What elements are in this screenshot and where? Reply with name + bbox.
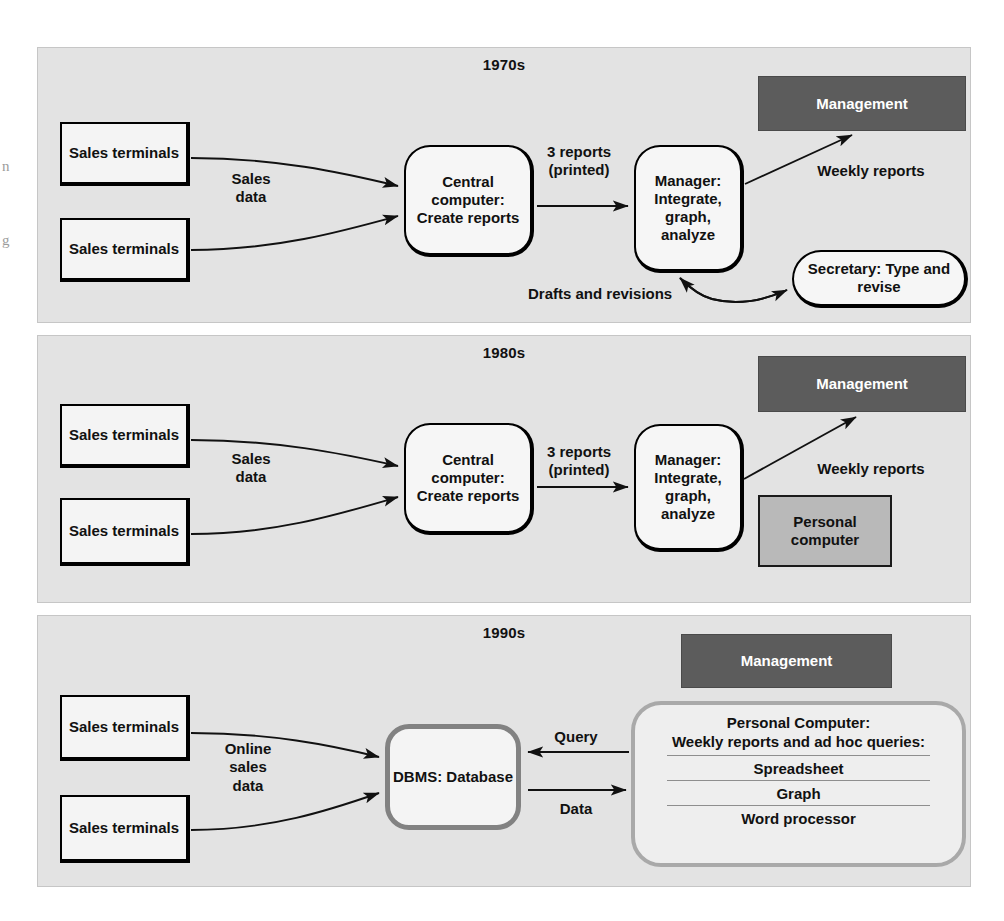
node-sales-terminals-bottom-1970s[interactable]: Sales terminals — [60, 218, 190, 282]
label-3-reports-1980s: 3 reports (printed) — [524, 443, 634, 480]
label-sales-data-1970s: Sales data — [206, 170, 296, 207]
node-sales-terminals-top-1980s[interactable]: Sales terminals — [60, 404, 190, 468]
node-personal-computer-1980s[interactable]: Personal computer — [758, 495, 892, 567]
node-personal-computer-1990s[interactable]: Personal Computer: Weekly reports and ad… — [631, 701, 966, 867]
edge-bleed-glyph-1: n — [2, 158, 16, 175]
node-central-computer-1970s[interactable]: Central computer: Create reports — [404, 145, 534, 257]
label-data-1990s: Data — [536, 800, 616, 818]
node-sales-terminals-bottom-1980s[interactable]: Sales terminals — [60, 498, 190, 566]
label-drafts-and-revisions-1970s: Drafts and revisions — [528, 285, 758, 303]
label-weekly-reports-1980s: Weekly reports — [796, 460, 946, 478]
node-secretary-1970s[interactable]: Secretary: Type and revise — [792, 250, 968, 308]
node-dbms-1990s[interactable]: DBMS: Database — [385, 724, 521, 830]
label-weekly-reports-1970s: Weekly reports — [796, 162, 946, 180]
label-3-reports-1970s: 3 reports (printed) — [524, 143, 634, 180]
node-management-1980s[interactable]: Management — [758, 356, 966, 412]
panel-title-1970s: 1970s — [38, 56, 970, 73]
label-online-sales-data-1990s: Online sales data — [200, 740, 296, 795]
node-sales-terminals-top-1990s[interactable]: Sales terminals — [60, 695, 190, 761]
node-manager-1970s[interactable]: Manager: Integrate, graph, analyze — [634, 145, 744, 273]
node-management-1970s[interactable]: Management — [758, 76, 966, 131]
label-sales-data-1980s: Sales data — [206, 450, 296, 487]
node-manager-1980s[interactable]: Manager: Integrate, graph, analyze — [634, 424, 744, 552]
pc-app-spreadsheet[interactable]: Spreadsheet — [667, 755, 930, 780]
edge-bleed-glyph-2: g — [2, 232, 16, 249]
pc-app-word-processor[interactable]: Word processor — [667, 805, 930, 829]
node-sales-terminals-top-1970s[interactable]: Sales terminals — [60, 122, 190, 186]
pc-app-graph[interactable]: Graph — [667, 780, 930, 805]
pc-heading-1990s: Personal Computer: Weekly reports and ad… — [649, 714, 948, 755]
label-query-1990s: Query — [536, 728, 616, 746]
node-management-1990s[interactable]: Management — [681, 634, 892, 688]
diagram-figure: n g 1970s Sales terminals Sales terminal… — [0, 0, 1004, 921]
node-sales-terminals-bottom-1990s[interactable]: Sales terminals — [60, 795, 190, 863]
node-central-computer-1980s[interactable]: Central computer: Create reports — [404, 423, 534, 535]
